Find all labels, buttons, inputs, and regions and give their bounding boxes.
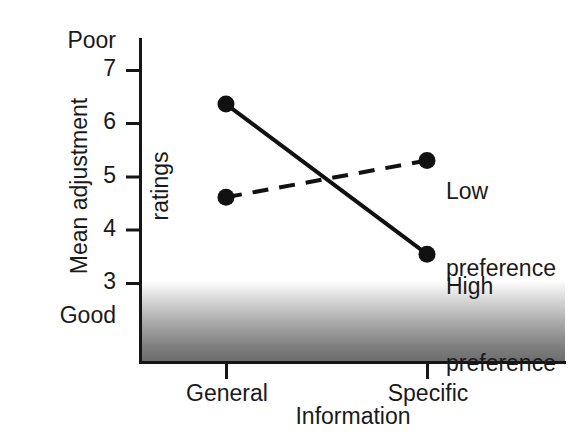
x-axis-ticks xyxy=(227,363,428,379)
y-axis-title: Mean adjustment ratings xyxy=(12,46,227,326)
series-high-preference xyxy=(218,96,436,263)
x-axis-title: Information xyxy=(243,404,463,430)
data-point-low-specific xyxy=(419,152,436,169)
data-point-high-specific xyxy=(419,246,436,263)
y-axis-title-line1: Mean adjustment xyxy=(66,46,93,326)
y-axis-title-line2: ratings xyxy=(147,46,174,326)
series-label-high-preference: High preference xyxy=(446,222,556,428)
series-label-high-preference-line2: preference xyxy=(446,351,556,377)
series-label-low-preference-line1: Low xyxy=(446,179,556,205)
chart-figure: Poor 7 6 5 4 3 Good Mean adjustment rati… xyxy=(0,0,588,431)
x-axis-tick-label-general: General xyxy=(147,381,307,407)
series-label-high-preference-line1: High xyxy=(446,274,556,300)
series-high-preference-line xyxy=(226,104,427,254)
